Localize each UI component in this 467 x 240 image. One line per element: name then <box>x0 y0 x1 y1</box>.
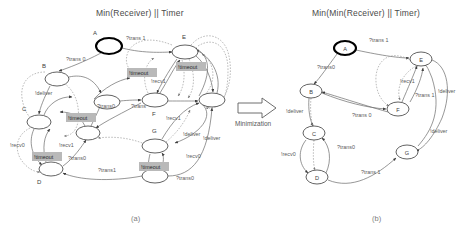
edge-label: !deliver <box>35 90 53 96</box>
node-left-H[interactable] <box>199 93 225 107</box>
node-label-left-B: B <box>42 63 46 69</box>
minimization-arrow <box>238 98 276 118</box>
edge-label: ?trans1 <box>98 167 116 173</box>
edge-label: !deliver <box>438 88 456 94</box>
edge-label: ?trans 1 <box>369 37 388 43</box>
edge-label: ?trans0 <box>337 144 355 150</box>
node-label-right-B: B <box>309 89 313 95</box>
figure-canvas: Min(Receiver) || Timer Min(Min(Receiver)… <box>0 0 467 240</box>
node-label-right-F: F <box>396 107 400 113</box>
highlight-label: !timeout <box>178 64 198 70</box>
left-edges-dashed <box>17 36 230 172</box>
node-label-left-C: C <box>22 106 27 112</box>
node-label-left-F: F <box>152 111 156 117</box>
edge-label: ?trans 0 <box>66 56 85 62</box>
edge-label: ?trans0 <box>68 155 86 161</box>
node-left-E[interactable] <box>172 45 198 59</box>
edge-label: !recv0 <box>10 142 25 148</box>
highlight-label: !timeout <box>129 70 149 76</box>
node-label-left-E: E <box>182 34 186 40</box>
edge-label: ?trans <box>131 103 146 109</box>
node-label-left-D: D <box>37 179 42 185</box>
node-label-right-C: C <box>312 131 316 137</box>
node-label-left-A: A <box>93 30 97 36</box>
edge-label: !recv1 <box>151 78 166 84</box>
edge-label: !recv1 <box>59 142 74 148</box>
node-left-G[interactable] <box>142 139 168 153</box>
caption-a: (a) <box>131 214 140 223</box>
node-left-C[interactable] <box>27 115 51 129</box>
edge-label: !recv1 <box>166 115 181 121</box>
edge-label: ?trans 1 <box>361 169 380 175</box>
highlight-label: !timeout <box>34 154 54 160</box>
node-label-right-D: D <box>315 175 319 181</box>
edge-label: ?trans0 <box>317 64 335 70</box>
node-left-D[interactable] <box>39 162 63 176</box>
node-label-right-G: G <box>405 150 409 156</box>
edge-label: !deliver <box>183 131 201 137</box>
node-left-A[interactable] <box>96 38 122 54</box>
edge-label: ?trans 0 <box>352 112 371 118</box>
edge-label: !deliver <box>286 108 304 114</box>
node-label-right-A: A <box>343 46 347 52</box>
highlight-label: !timeout <box>68 115 88 121</box>
node-left-B[interactable] <box>45 72 69 86</box>
edge-label: !recv1 <box>400 78 415 84</box>
edge-label: ?trans 1 <box>126 35 145 41</box>
node-left-K[interactable] <box>142 169 168 183</box>
edge-label: ?trans0 <box>97 103 115 109</box>
minimization-label: Minimization <box>235 120 271 127</box>
node-label-right-E: E <box>419 57 423 63</box>
edge-label: ?trans 1 <box>415 92 434 98</box>
edge-label: ?trans0 <box>176 175 194 181</box>
edge-label: !recv0 <box>186 153 201 159</box>
right-edges <box>300 50 447 183</box>
node-label-left-G: G <box>152 128 157 134</box>
highlight-label: !timeout <box>141 164 161 170</box>
edge-label: !deliver <box>203 135 221 141</box>
edge-label: !recv0 <box>281 151 296 157</box>
diagram-svg: A B C D E F G ?trans 1 ?trans 0 !deliver… <box>0 0 467 240</box>
caption-b: (b) <box>372 214 381 223</box>
edge-label: !deliver <box>430 128 448 134</box>
node-left-I[interactable] <box>76 126 100 140</box>
